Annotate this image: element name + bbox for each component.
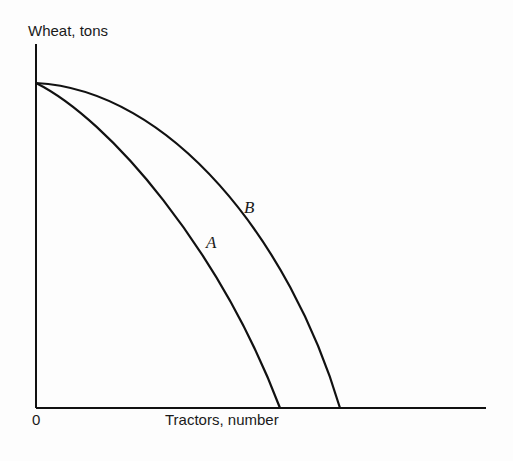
curve-b-label: B <box>244 198 254 218</box>
origin-label: 0 <box>32 411 40 428</box>
ppf-diagram: Wheat, tons Tractors, number 0 A B <box>0 0 513 461</box>
curve-a <box>36 83 280 408</box>
diagram-canvas <box>0 0 513 461</box>
y-axis-label: Wheat, tons <box>28 22 108 39</box>
curve-b <box>36 83 340 408</box>
curve-a-label: A <box>206 233 216 253</box>
x-axis-label: Tractors, number <box>165 411 279 428</box>
